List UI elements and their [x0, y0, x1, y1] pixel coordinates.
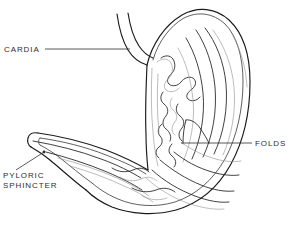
- label-pyloric-sphincter-line2: SPHINCTER: [3, 181, 57, 190]
- stomach-illustration: [0, 0, 294, 225]
- label-folds: FOLDS: [255, 139, 286, 149]
- stomach-outer-wall: [28, 9, 250, 213]
- rugae-folds-lower: [112, 143, 241, 209]
- rugae-folds-upper: [151, 56, 200, 167]
- label-pyloric-sphincter-line1: PYLORIC: [3, 171, 44, 180]
- rugae-folds-right: [178, 28, 247, 162]
- leader-dot-pyloric-sphincter: [43, 151, 46, 154]
- label-cardia: CARDIA: [4, 45, 40, 55]
- label-pyloric-sphincter: PYLORICSPHINCTER: [3, 171, 57, 191]
- stomach-diagram-figure: CARDIA FOLDS PYLORICSPHINCTER: [0, 0, 294, 225]
- rugae-fold-pocket: [183, 120, 209, 143]
- esophagus-part: [117, 13, 153, 65]
- leader-line-pyloric-sphincter: [16, 152, 44, 170]
